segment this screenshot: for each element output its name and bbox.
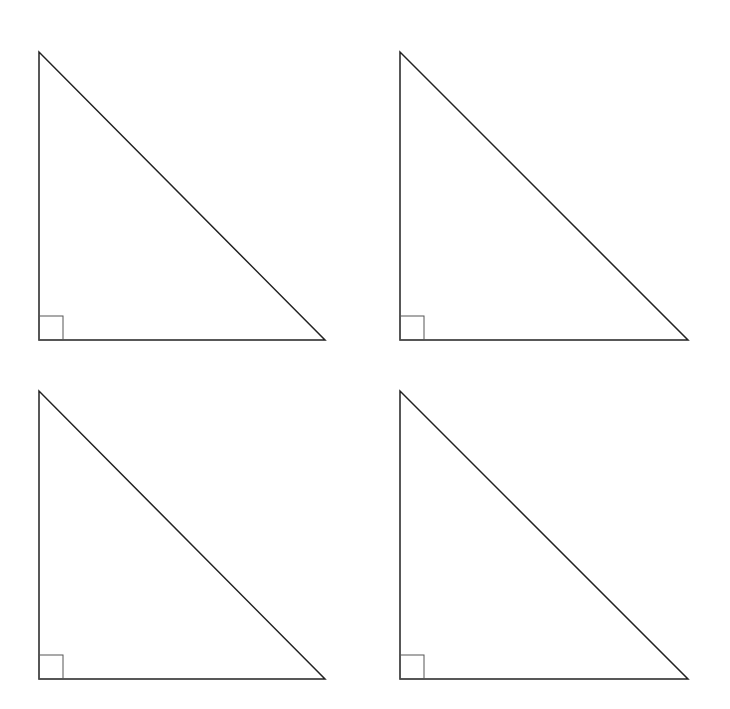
triangle-top-right <box>400 52 688 340</box>
triangle-bottom-left <box>39 391 325 679</box>
triangle-bottom-right <box>400 391 688 679</box>
right-angle-marker <box>39 316 63 340</box>
triangle-outline <box>39 52 325 340</box>
right-angle-marker <box>400 655 424 679</box>
triangle-outline <box>39 391 325 679</box>
triangle-outline <box>400 52 688 340</box>
right-angle-marker <box>400 316 424 340</box>
diagram-canvas <box>0 0 730 709</box>
right-angle-marker <box>39 655 63 679</box>
triangle-outline <box>400 391 688 679</box>
triangle-top-left <box>39 52 325 340</box>
